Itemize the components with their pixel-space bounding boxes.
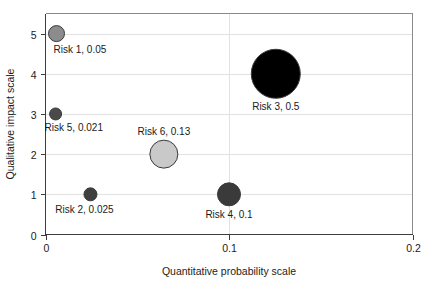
x-tick-label: 0.2	[406, 242, 421, 254]
bubble-risk-6	[150, 140, 178, 168]
bubble-risk-1	[49, 26, 65, 42]
bubble-risk-3	[251, 49, 300, 98]
y-tick-label: 4	[31, 69, 37, 81]
y-tick-label: 5	[31, 29, 37, 41]
y-axis-ticks: 012345	[31, 29, 46, 242]
label-risk-2: Risk 2, 0.025	[55, 204, 114, 215]
x-axis-title: Quantitative probability scale	[162, 265, 296, 277]
y-tick-label: 2	[31, 149, 37, 161]
label-risk-3: Risk 3, 0.5	[252, 101, 300, 112]
x-axis-ticks: 00.10.2	[44, 235, 421, 254]
y-axis-title: Qualitative impact scale	[4, 68, 16, 179]
bubble-risk-5	[50, 108, 62, 120]
chart-canvas: 00.10.2 012345 Risk 1, 0.05Risk 5, 0.021…	[0, 0, 434, 288]
bubble-chart: 00.10.2 012345 Risk 1, 0.05Risk 5, 0.021…	[0, 0, 434, 288]
bubble-risk-2	[84, 188, 97, 201]
label-risk-5: Risk 5, 0.021	[45, 122, 104, 133]
y-tick-label: 0	[31, 230, 37, 242]
bubble-risk-4	[218, 183, 241, 206]
label-risk-1: Risk 1, 0.05	[54, 44, 107, 55]
y-tick-label: 1	[31, 189, 37, 201]
x-tick-label: 0	[44, 242, 50, 254]
label-risk-6: Risk 6, 0.13	[137, 126, 190, 137]
label-risk-4: Risk 4, 0.1	[205, 209, 253, 220]
y-tick-label: 3	[31, 109, 37, 121]
x-tick-label: 0.1	[222, 242, 237, 254]
